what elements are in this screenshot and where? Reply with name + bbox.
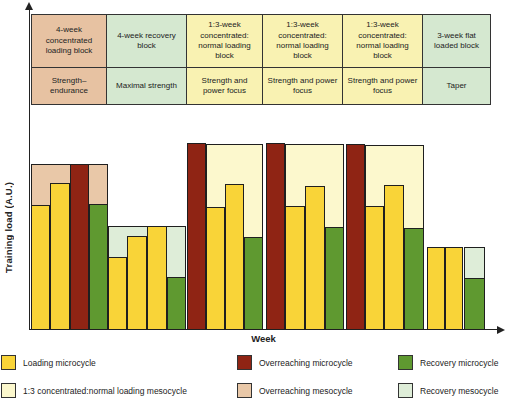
focus-cell: Taper <box>423 68 490 104</box>
focus-cell: Strength and power focus <box>187 68 262 104</box>
legend-item-overreaching-mesocycle: Overreaching mesocycle <box>237 382 353 399</box>
block-name-cell: 1:3-week concentrated: normal loading bl… <box>343 15 422 68</box>
bar-week-19-loading <box>384 185 404 330</box>
bar-week-23-recovery <box>464 278 485 330</box>
focus-cell: Strength–endurance <box>32 68 106 104</box>
overreaching-mesocycle-swatch-icon <box>237 383 252 398</box>
table-column-5: 1:3-week concentrated: normal loading bl… <box>343 15 423 104</box>
bar-week-17-overreaching <box>346 144 365 330</box>
bar-week-18-loading <box>365 206 384 330</box>
bar-week-4-recovery <box>89 204 108 330</box>
block-name-cell: 3-week flat loaded block <box>423 15 490 68</box>
legend-item-concentrated-mesocycle: 1:3 concentrated:normal loading mesocycl… <box>1 382 187 399</box>
recovery-microcycle-swatch-icon <box>398 355 413 370</box>
block-name-cell: 1:3-week concentrated: normal loading bl… <box>187 15 262 68</box>
mesocycle-table: 4-week concentrated loading block Streng… <box>31 14 491 105</box>
table-column-6: 3-week flat loaded block Taper <box>423 15 490 104</box>
table-column-4: 1:3-week concentrated: normal loading bl… <box>263 15 343 104</box>
bar-week-16-recovery <box>325 227 344 330</box>
legend-label: Loading microcycle <box>23 358 96 368</box>
focus-cell: Strength and power focus <box>263 68 342 104</box>
bar-week-7-loading <box>147 226 167 330</box>
legend-item-overreaching-microcycle: Overreaching microcycle <box>237 354 353 371</box>
x-axis-label: Week <box>29 333 498 344</box>
legend-label: Overreaching microcycle <box>259 358 353 368</box>
recovery-mesocycle-swatch-icon <box>398 383 413 398</box>
bar-week-13-overreaching <box>266 143 285 330</box>
block-name-cell: 1:3-week concentrated: normal loading bl… <box>263 15 342 68</box>
bar-week-8-recovery <box>167 277 186 330</box>
legend-item-recovery-mesocycle: Recovery mesocycle <box>398 382 498 399</box>
bar-week-15-loading <box>305 186 325 330</box>
bar-week-10-loading <box>206 207 225 330</box>
table-column-3: 1:3-week concentrated: normal loading bl… <box>187 15 263 104</box>
overreaching-microcycle-swatch-icon <box>237 355 252 370</box>
loading-microcycle-swatch-icon <box>1 355 16 370</box>
bar-week-5-loading <box>108 257 127 330</box>
legend-label: 1:3 concentrated:normal loading mesocycl… <box>23 386 187 396</box>
bar-week-11-loading <box>225 184 244 330</box>
block-name-cell: 4-week concentrated loading block <box>32 15 106 68</box>
table-column-1: 4-week concentrated loading block Streng… <box>32 15 107 104</box>
bar-week-21-loading <box>427 247 445 330</box>
table-column-2: 4-week recovery block Maximal strength <box>107 15 187 104</box>
legend-item-loading-microcycle: Loading microcycle <box>1 354 96 371</box>
y-axis-label: Training load (A.U.) <box>3 152 14 302</box>
focus-cell: Strength and power focus <box>343 68 422 104</box>
bar-week-2-loading <box>50 183 70 330</box>
bar-week-22-loading <box>445 247 463 330</box>
bar-week-20-recovery <box>404 228 424 330</box>
legend-item-recovery-microcycle: Recovery microcycle <box>398 354 498 371</box>
periodization-figure: 4-week concentrated loading block Streng… <box>0 0 520 417</box>
x-axis-arrow-icon <box>497 326 505 334</box>
focus-cell: Maximal strength <box>107 68 186 104</box>
legend-label: Recovery microcycle <box>420 358 498 368</box>
y-axis-arrow-icon <box>25 2 33 10</box>
bar-week-14-loading <box>285 206 305 330</box>
bar-week-1-loading <box>31 205 50 330</box>
concentrated-mesocycle-swatch-icon <box>1 383 16 398</box>
bar-week-6-loading <box>127 236 147 330</box>
block-name-cell: 4-week recovery block <box>107 15 186 68</box>
bar-week-3-overreaching <box>70 164 89 330</box>
legend-label: Overreaching mesocycle <box>259 386 353 396</box>
bar-week-9-overreaching <box>187 143 206 330</box>
bar-week-12-recovery <box>244 237 263 330</box>
legend-label: Recovery mesocycle <box>420 386 498 396</box>
